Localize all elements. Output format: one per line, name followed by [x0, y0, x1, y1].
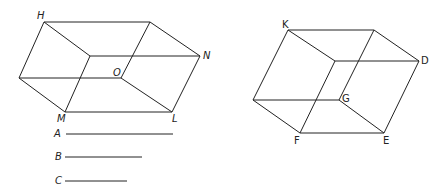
label-d: D — [421, 56, 429, 66]
label-o: O — [113, 68, 121, 78]
label-f: F — [294, 136, 300, 146]
label-c: C — [55, 176, 62, 186]
right-parallelepiped — [253, 30, 419, 133]
label-n: N — [203, 51, 210, 61]
parallelepiped-diagrams — [0, 0, 441, 191]
label-l: L — [172, 114, 178, 124]
left-parallelepiped — [19, 22, 200, 112]
label-a: A — [54, 129, 61, 139]
label-m: M — [57, 114, 66, 124]
label-h: H — [37, 11, 45, 21]
label-b: B — [55, 152, 62, 162]
label-k: K — [282, 20, 289, 30]
label-e: E — [383, 136, 389, 146]
label-g: G — [342, 94, 350, 104]
